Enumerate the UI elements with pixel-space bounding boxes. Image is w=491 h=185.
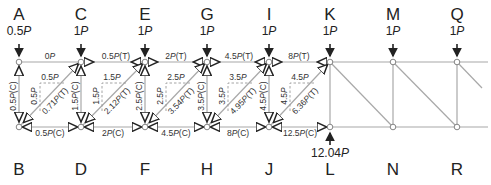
node-label-B: B — [13, 160, 24, 180]
vertical-force-GH: 3.5P(C) — [197, 81, 206, 110]
node-label-Q: Q — [450, 5, 463, 25]
bottom-chord-force-DF: 2P(C) — [102, 129, 124, 138]
bottom-chord-force-JL: 12.5P(C) — [283, 129, 317, 138]
node-label-A: A — [13, 5, 24, 25]
node-label-M: M — [386, 5, 400, 25]
top-chord-force-IK: 8P(T) — [288, 52, 309, 61]
component-h-label-3: 2.5P — [167, 73, 185, 82]
node-label-I: I — [267, 5, 272, 25]
vertical-force-EF: 2.5P(C) — [135, 81, 144, 110]
node-label-G: G — [200, 5, 213, 25]
vertical-force-CD: 1.5P(C) — [71, 81, 80, 110]
load-label-C: 1P — [74, 24, 89, 38]
component-v-label-1: 0.5P — [30, 87, 39, 105]
load-label-I: 1P — [262, 24, 277, 38]
load-label-A: 0.5P — [7, 24, 32, 38]
load-label-G: 1P — [200, 24, 215, 38]
top-chord-force-GI: 4.5P(T) — [225, 52, 253, 61]
load-label-E: 1P — [138, 24, 153, 38]
load-label-K: 1P — [323, 24, 338, 38]
bottom-chord-force-HJ: 8P(C) — [227, 129, 249, 138]
node-label-F: F — [140, 160, 150, 180]
vertical-force-IJ: 4.5P(C) — [259, 81, 268, 110]
reaction-label: 12.04P — [311, 146, 349, 160]
top-chord-force-AC: 0P — [45, 52, 55, 61]
node-label-E: E — [139, 5, 150, 25]
bottom-chord-force-BD: 0.5P(C) — [35, 129, 64, 138]
component-v-label-4: 3.5P — [218, 87, 227, 105]
component-h-label-5: 4.5P — [291, 73, 309, 82]
node-label-J: J — [265, 160, 274, 180]
component-v-label-3: 2.5P — [156, 87, 165, 105]
component-v-label-5: 4.5P — [280, 87, 289, 105]
component-v-label-2: 1.5P — [92, 87, 101, 105]
bottom-chord-force-FH: 4.5P(C) — [161, 129, 190, 138]
node-label-H: H — [201, 160, 213, 180]
component-h-label-1: 0.5P — [41, 73, 59, 82]
load-label-Q: 1P — [450, 24, 465, 38]
node-label-L: L — [325, 160, 334, 180]
vertical-force-AB: 0.5P(C) — [9, 81, 18, 110]
load-label-M: 1P — [386, 24, 401, 38]
node-label-C: C — [75, 5, 87, 25]
top-chord-force-CE: 0.5P(T) — [102, 52, 130, 61]
node-label-N: N — [387, 160, 399, 180]
component-h-label-2: 1.5P — [103, 73, 121, 82]
component-h-label-4: 3.5P — [229, 73, 247, 82]
node-label-R: R — [451, 160, 463, 180]
node-label-K: K — [324, 5, 335, 25]
top-chord-force-EG: 2P(T) — [165, 52, 186, 61]
node-label-D: D — [75, 160, 87, 180]
